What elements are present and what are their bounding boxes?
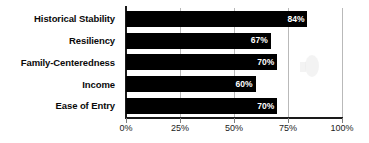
bar-family-centeredness: 70% (126, 54, 277, 70)
x-axis-tick-label: 25% (171, 124, 189, 133)
bar-row: 70% (126, 95, 342, 117)
plot-area: 84% 67% 70% 60% 70% (126, 8, 342, 117)
category-label-ease-of-entry: Ease of Entry (0, 95, 121, 117)
bars-layer: 84% 67% 70% 60% 70% (126, 8, 342, 117)
bar-value-label: 84% (287, 15, 304, 24)
bar-row: 70% (126, 52, 342, 74)
bar-row: 67% (126, 30, 342, 52)
gridline (342, 8, 343, 117)
bar-income: 60% (126, 76, 256, 92)
category-axis: Historical Stability Resiliency Family-C… (0, 8, 121, 117)
bar-row: 84% (126, 8, 342, 30)
category-label-historical-stability: Historical Stability (0, 8, 121, 30)
bar-historical-stability: 84% (126, 11, 307, 27)
x-axis-tick-label: 75% (279, 124, 297, 133)
x-axis-tick-label: 100% (330, 124, 353, 133)
x-axis-tick-label: 50% (225, 124, 243, 133)
bar-row: 60% (126, 73, 342, 95)
bar-value-label: 60% (236, 80, 253, 89)
bar-resiliency: 67% (126, 33, 271, 49)
x-axis-tick-label: 0% (119, 124, 132, 133)
category-label-resiliency: Resiliency (0, 30, 121, 52)
bar-value-label: 70% (257, 58, 274, 67)
category-label-family-centeredness: Family-Centeredness (0, 52, 121, 74)
category-label-income: Income (0, 73, 121, 95)
x-axis-tick-labels: 0%25%50%75%100% (126, 124, 342, 138)
bar-ease-of-entry: 70% (126, 98, 277, 114)
bar-value-label: 67% (251, 36, 268, 45)
bar-value-label: 70% (257, 102, 274, 111)
horizontal-bar-chart: Historical Stability Resiliency Family-C… (0, 0, 369, 143)
